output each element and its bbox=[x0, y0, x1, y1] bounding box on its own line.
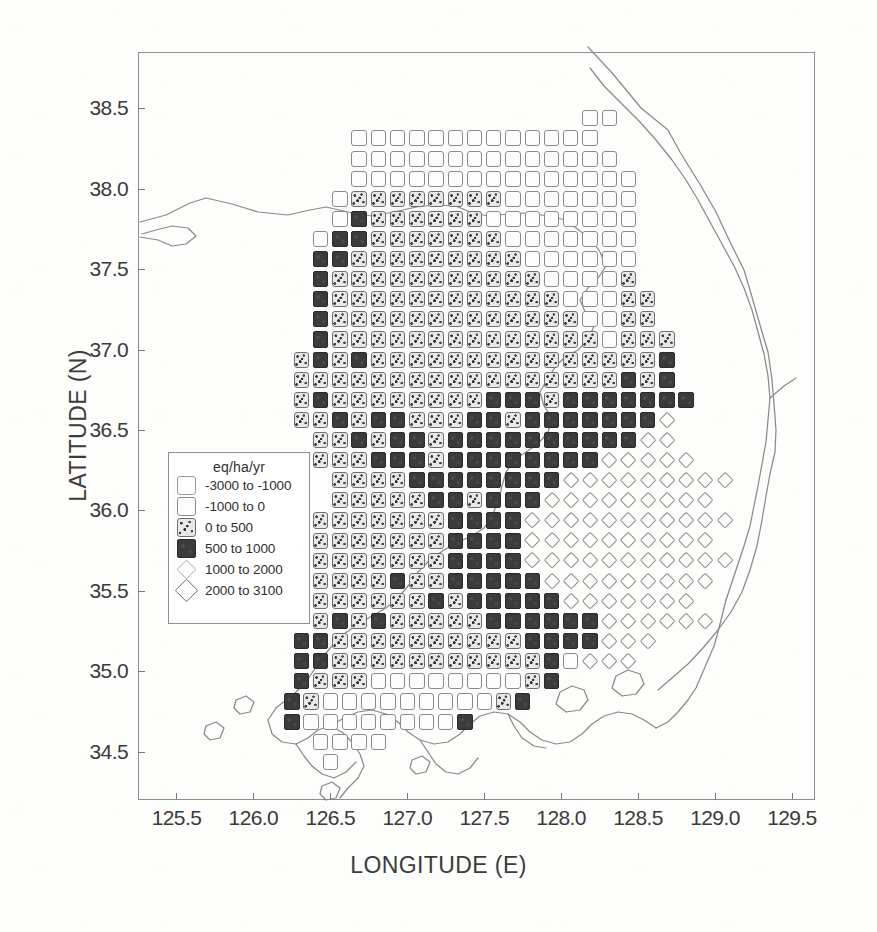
y-tick-mark bbox=[138, 108, 145, 109]
legend-item: 500 to 1000 bbox=[177, 538, 309, 559]
x-tick-mark bbox=[253, 793, 254, 800]
legend-item: 0 to 500 bbox=[177, 517, 309, 538]
y-tick-label: 35.5 bbox=[40, 579, 128, 603]
y-tick-label: 37.5 bbox=[40, 257, 128, 281]
large-diamond-icon bbox=[175, 579, 199, 603]
solid-square-icon bbox=[177, 539, 196, 558]
y-tick-mark bbox=[138, 430, 145, 431]
x-axis-title: LONGITUDE (E) bbox=[0, 852, 877, 879]
x-tick-label: 128.5 bbox=[613, 806, 663, 830]
y-tick-label: 34.5 bbox=[40, 740, 128, 764]
y-tick-mark bbox=[138, 269, 145, 270]
legend-item-label: 0 to 500 bbox=[205, 520, 253, 535]
y-axis-title: LATITUDE (N) bbox=[65, 286, 92, 566]
x-tick-label: 129.0 bbox=[690, 806, 740, 830]
x-tick-mark bbox=[407, 793, 408, 800]
legend-item: -1000 to 0 bbox=[177, 496, 309, 517]
y-tick-label: 35.0 bbox=[40, 659, 128, 683]
legend-title: eq/ha/yr bbox=[169, 459, 309, 475]
legend: eq/ha/yr -3000 to -1000-1000 to 00 to 50… bbox=[168, 452, 310, 624]
y-tick-label: 38.5 bbox=[40, 96, 128, 120]
y-tick-mark bbox=[138, 671, 145, 672]
y-axis-title-wrap: LATITUDE (N) bbox=[18, 52, 48, 800]
x-tick-label: 126.0 bbox=[229, 806, 279, 830]
x-tick-mark bbox=[484, 793, 485, 800]
y-tick-mark bbox=[138, 350, 145, 351]
small-diamond-icon bbox=[177, 560, 197, 580]
y-tick-label: 38.0 bbox=[40, 177, 128, 201]
x-tick-mark bbox=[561, 793, 562, 800]
x-tick-mark bbox=[330, 793, 331, 800]
legend-item-label: -1000 to 0 bbox=[205, 499, 265, 514]
x-tick-mark bbox=[715, 793, 716, 800]
legend-item: 2000 to 3100 bbox=[177, 580, 309, 601]
legend-item-label: -3000 to -1000 bbox=[205, 478, 291, 493]
x-tick-label: 129.5 bbox=[767, 806, 817, 830]
x-tick-mark bbox=[176, 793, 177, 800]
legend-item-label: 2000 to 3100 bbox=[205, 583, 283, 598]
legend-item: 1000 to 2000 bbox=[177, 559, 309, 580]
y-tick-mark bbox=[138, 752, 145, 753]
x-tick-label: 127.5 bbox=[459, 806, 509, 830]
legend-item-label: 500 to 1000 bbox=[205, 541, 275, 556]
plot-frame bbox=[138, 52, 815, 800]
y-tick-mark bbox=[138, 510, 145, 511]
x-tick-label: 125.5 bbox=[152, 806, 202, 830]
x-tick-label: 126.5 bbox=[306, 806, 356, 830]
stippled-square-icon bbox=[177, 518, 196, 537]
open-square-light-icon bbox=[177, 476, 196, 495]
legend-item-label: 1000 to 2000 bbox=[205, 562, 283, 577]
figure-root: 125.5126.0126.5127.0127.5128.0128.5129.0… bbox=[0, 0, 877, 932]
legend-rows: -3000 to -1000-1000 to 00 to 500500 to 1… bbox=[169, 475, 309, 601]
x-tick-mark bbox=[638, 793, 639, 800]
x-tick-mark bbox=[792, 793, 793, 800]
x-tick-label: 127.0 bbox=[382, 806, 432, 830]
legend-item: -3000 to -1000 bbox=[177, 475, 309, 496]
x-tick-label: 128.0 bbox=[536, 806, 586, 830]
y-tick-mark bbox=[138, 591, 145, 592]
y-tick-mark bbox=[138, 189, 145, 190]
open-square-icon bbox=[177, 497, 196, 516]
